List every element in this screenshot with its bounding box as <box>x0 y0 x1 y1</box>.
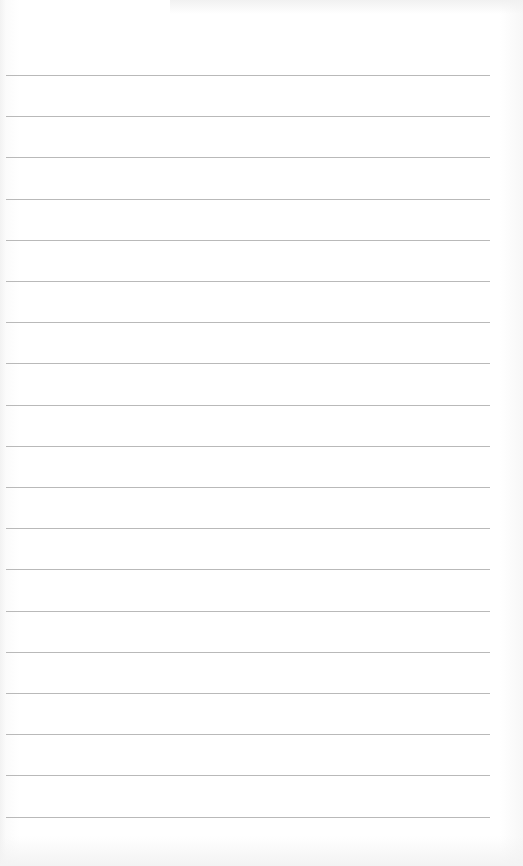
ruled-line <box>6 487 490 488</box>
lined-paper-sheet <box>0 0 523 866</box>
ruled-line <box>6 240 490 241</box>
ruled-line <box>6 199 490 200</box>
ruled-line <box>6 363 490 364</box>
ruled-line <box>6 75 490 76</box>
ruled-line <box>6 528 490 529</box>
ruled-line <box>6 611 490 612</box>
ruled-line <box>6 157 490 158</box>
ruled-line <box>6 281 490 282</box>
ruled-line <box>6 405 490 406</box>
ruled-line <box>6 652 490 653</box>
ruled-line <box>6 817 490 818</box>
ruled-line <box>6 693 490 694</box>
ruled-line <box>6 322 490 323</box>
ruled-line <box>6 569 490 570</box>
bottom-shadow <box>0 836 523 866</box>
ruled-line <box>6 446 490 447</box>
ruled-line <box>6 734 490 735</box>
ruled-line <box>6 116 490 117</box>
top-shadow <box>170 0 523 14</box>
ruled-line <box>6 775 490 776</box>
